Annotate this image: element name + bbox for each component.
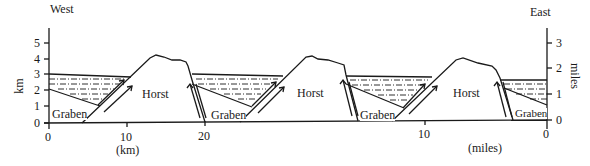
right-tick-1: 1 xyxy=(556,88,562,100)
km-unit-label: (km) xyxy=(116,144,139,156)
left-tick-3: 3 xyxy=(34,68,40,80)
km-tick-20: 20 xyxy=(198,130,210,142)
graben-4-label: Graben xyxy=(515,108,547,119)
right-axis-label: miles xyxy=(569,63,581,89)
graben-1-label: Graben xyxy=(52,108,87,120)
left-tick-1: 1 xyxy=(34,100,40,112)
graben-2-label: Graben xyxy=(211,109,246,121)
east-label: East xyxy=(530,6,551,18)
left-tick-4: 4 xyxy=(34,53,40,65)
graben-3-label: Graben xyxy=(360,109,395,121)
right-tick-2: 2 xyxy=(556,62,562,74)
km-tick-10: 10 xyxy=(120,131,132,143)
miles-tick-0: 0 xyxy=(543,128,549,140)
right-tick-3: 3 xyxy=(556,37,562,49)
left-tick-2: 2 xyxy=(34,84,40,96)
graben-3-surface xyxy=(346,76,432,77)
horst-2-label: Horst xyxy=(297,87,324,99)
left-axis-label: km xyxy=(13,78,25,93)
horst-1-label: Horst xyxy=(142,88,169,100)
km-tick-0: 0 xyxy=(45,131,51,143)
baseline xyxy=(44,120,547,123)
horst-3-label: Horst xyxy=(453,87,480,99)
west-label: West xyxy=(50,3,74,15)
left-tick-5: 5 xyxy=(34,37,40,49)
right-tick-0: 0 xyxy=(556,114,562,126)
miles-tick-10: 10 xyxy=(418,128,430,140)
graben-2-surface xyxy=(192,74,283,76)
miles-unit-label: (miles) xyxy=(468,142,502,154)
graben-1-surface xyxy=(49,74,131,77)
left-tick-0: 0 xyxy=(34,117,40,129)
